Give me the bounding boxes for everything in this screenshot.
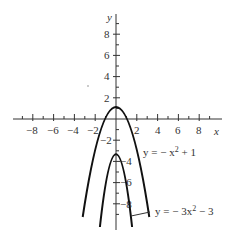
- y-tick-label: 8: [104, 28, 110, 40]
- x-tick-label: 2: [134, 124, 140, 136]
- x-tick-label: 8: [196, 124, 202, 136]
- x-tick-label: 6: [175, 124, 181, 136]
- x-tick-label: −8: [26, 124, 38, 136]
- stray-mark: [87, 85, 89, 87]
- x-tick-label: −6: [47, 124, 59, 136]
- x-tick-label: −2: [87, 124, 99, 136]
- y-tick-label: 4: [104, 70, 110, 82]
- leader-line: [131, 212, 150, 216]
- equation-label-lower: y = − 3x2 − 3: [155, 204, 214, 217]
- y-axis-label: y: [106, 11, 112, 23]
- x-tick-label: −4: [67, 124, 79, 136]
- x-tick-label: 4: [155, 124, 161, 136]
- y-tick-label: 2: [104, 92, 110, 104]
- chart-svg: −8 −6 −4 −2 2 4 6 8 8 6 4 2 −2 −4 −6 −8 …: [0, 0, 232, 236]
- equation-label-upper: y = − x2 + 1: [143, 145, 196, 158]
- x-axis-label: x: [213, 125, 219, 137]
- chart-container: −8 −6 −4 −2 2 4 6 8 8 6 4 2 −2 −4 −6 −8 …: [0, 0, 232, 236]
- y-tick-label: 6: [104, 49, 110, 61]
- y-tick-label: −2: [100, 134, 112, 146]
